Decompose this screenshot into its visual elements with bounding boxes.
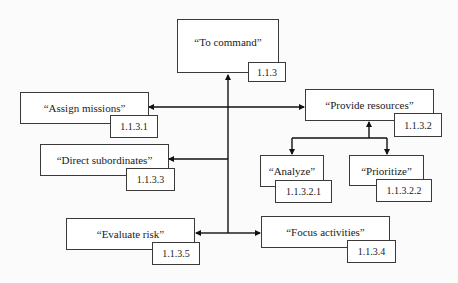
node-code-tag: 1.1.3.5 bbox=[152, 242, 200, 265]
node-code-tag: 1.1.3.1 bbox=[110, 115, 158, 138]
node-code-tag: 1.1.3.2.1 bbox=[275, 180, 332, 203]
node-code-tag: 1.1.3 bbox=[248, 62, 286, 82]
node-code-tag: 1.1.3.2.2 bbox=[376, 179, 432, 202]
node-code-tag: 1.1.3.3 bbox=[126, 168, 175, 191]
node-code-tag: 1.1.3.2 bbox=[394, 113, 442, 137]
node-code-tag: 1.1.3.4 bbox=[347, 240, 396, 263]
